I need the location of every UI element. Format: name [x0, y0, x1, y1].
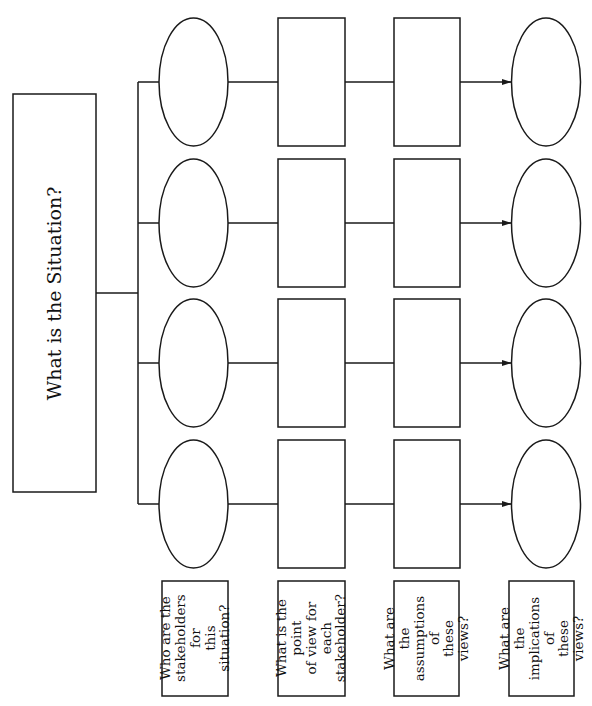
implication-ellipse: [512, 18, 581, 146]
viewpoint-box: [278, 18, 345, 146]
viewpoint-box: [278, 299, 345, 427]
situation-title: What is the Situation?: [13, 94, 96, 492]
stakeholder-ellipse: [159, 159, 228, 287]
assumption-box: [394, 440, 460, 568]
assumption-box: [394, 299, 460, 427]
assumptions-label-text: What are the assumptions of these views?: [382, 596, 471, 682]
point-of-view-label-text: What is the point of view for each stake…: [274, 594, 348, 682]
row-1: [138, 18, 581, 146]
row-4: [138, 440, 581, 568]
assumption-box: [394, 159, 460, 287]
stakeholder-ellipse: [159, 299, 228, 427]
assumption-box: [394, 18, 460, 146]
stakeholders-label-text: Who are the stakeholders for this situat…: [158, 595, 232, 683]
row-2: [138, 159, 581, 287]
implications-label-text: What are the implications of these views…: [497, 597, 586, 681]
stakeholders-label: Who are the stakeholders for this situat…: [162, 581, 228, 696]
viewpoint-box: [278, 159, 345, 287]
point-of-view-label: What is the point of view for each stake…: [278, 581, 345, 696]
implication-ellipse: [512, 299, 581, 427]
implication-ellipse: [512, 159, 581, 287]
implications-label: What are the implications of these views…: [509, 581, 574, 696]
assumptions-label: What are the assumptions of these views?: [394, 581, 459, 696]
stakeholder-ellipse: [159, 440, 228, 568]
stakeholder-ellipse: [159, 18, 228, 146]
implication-ellipse: [512, 440, 581, 568]
row-3: [138, 299, 581, 427]
situation-title-text: What is the Situation?: [44, 186, 65, 400]
viewpoint-box: [278, 440, 345, 568]
